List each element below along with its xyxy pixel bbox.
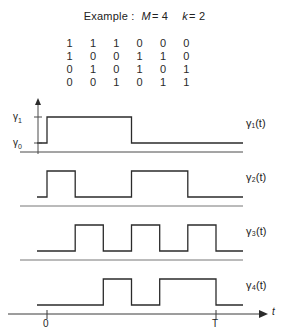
waveform-trace-4	[37, 279, 243, 305]
matrix-cell: 1	[128, 49, 151, 62]
matrix-cell: 1	[151, 75, 174, 88]
y-label-low: γ0	[13, 137, 22, 150]
y-label-high: γ1	[13, 111, 22, 124]
title-param-k-name: k	[182, 10, 188, 22]
t-axis-arrow-icon	[259, 310, 268, 318]
matrix-cell: 1	[105, 75, 128, 88]
matrix-cell: 1	[58, 36, 81, 49]
matrix-cell: 0	[151, 62, 174, 75]
matrix-cell: 0	[81, 75, 104, 88]
waveform-plot-2: γ₂(t)	[0, 150, 289, 210]
table-row: 1 0 0 1 1 0	[58, 49, 198, 62]
matrix-cell: 0	[105, 62, 128, 75]
page-title: Example :M = 4k = 2	[0, 10, 289, 22]
matrix-cell: 0	[175, 36, 198, 49]
matrix-cell: 1	[81, 62, 104, 75]
waveform-stack: γ1 γ0 γ₁(t) γ₂(t) γ₃(t)	[0, 96, 289, 328]
table-row: 0 1 0 1 0 1	[58, 62, 198, 75]
waveform-plot-4: γ₄(t) 0 T t	[0, 258, 289, 328]
matrix-cell: 0	[81, 49, 104, 62]
matrix-cell: 0	[175, 49, 198, 62]
matrix-cell: 0	[128, 75, 151, 88]
waveform-trace-2	[37, 171, 243, 197]
code-matrix: 1 1 1 0 0 0 1 0 0 1 1 0 0 1 0 1 0 1 0 0 …	[58, 36, 198, 88]
matrix-cell: 1	[151, 49, 174, 62]
matrix-cell: 1	[175, 62, 198, 75]
waveform-plot-3: γ₃(t)	[0, 204, 289, 264]
title-param-m-value: = 4	[152, 10, 168, 22]
matrix-cell: 1	[175, 75, 198, 88]
matrix-cell: 1	[105, 36, 128, 49]
table-row: 0 0 1 0 1 1	[58, 75, 198, 88]
matrix-cell: 0	[128, 36, 151, 49]
y-axis-arrow-icon	[35, 98, 41, 105]
t-end-label: T	[212, 318, 218, 329]
table-row: 1 1 1 0 0 0	[58, 36, 198, 49]
title-param-m-name: M	[141, 10, 150, 22]
matrix-cell: 1	[81, 36, 104, 49]
waveform-label-4: γ₄(t)	[246, 279, 266, 291]
waveform-trace-1	[37, 117, 243, 143]
waveform-label-1: γ₁(t)	[246, 117, 266, 129]
code-matrix-body: 1 1 1 0 0 0 1 0 0 1 1 0 0 1 0 1 0 1 0 0 …	[58, 36, 198, 88]
matrix-cell: 0	[58, 62, 81, 75]
t-axis-label: t	[272, 306, 275, 317]
t-origin-label: 0	[43, 318, 49, 329]
waveform-label-3: γ₃(t)	[246, 225, 266, 237]
waveform-label-2: γ₂(t)	[246, 171, 266, 183]
matrix-cell: 1	[128, 62, 151, 75]
matrix-cell: 0	[58, 75, 81, 88]
waveform-plot-1: γ1 γ0 γ₁(t)	[0, 96, 289, 156]
waveform-trace-3	[37, 225, 243, 251]
matrix-cell: 1	[58, 49, 81, 62]
matrix-cell: 0	[151, 36, 174, 49]
title-prefix: Example :	[84, 10, 135, 22]
title-param-k-value: = 2	[189, 10, 205, 22]
matrix-cell: 0	[105, 49, 128, 62]
